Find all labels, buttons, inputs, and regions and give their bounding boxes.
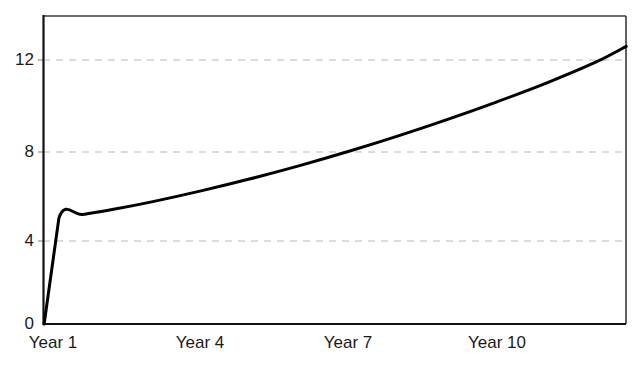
xtick-label-year-1: Year 1 [29,334,78,352]
ytick-label-0: 0 [4,315,34,332]
xtick-label-year-10: Year 10 [468,334,526,352]
plot-background [43,16,626,324]
ytick-label-8: 8 [4,143,34,160]
xtick-label-year-4: Year 4 [176,334,225,352]
plot-area [0,0,641,368]
y-axis-ticks [38,60,43,241]
xtick-label-year-7: Year 7 [324,334,373,352]
chart-figure: 12 8 4 0 Year 1 Year 4 Year 7 Year 10 [0,0,641,368]
ytick-label-12: 12 [4,51,34,68]
ytick-label-4: 4 [4,232,34,249]
